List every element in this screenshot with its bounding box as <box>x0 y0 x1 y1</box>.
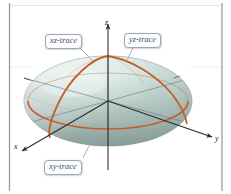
axis-label-x: x <box>14 142 18 151</box>
callout-xz-trace: xz-trace <box>45 34 82 49</box>
axis-label-y: y <box>215 134 219 143</box>
callout-xy-trace: xy-trace <box>44 160 82 175</box>
figure-ellipsoid-traces: xz-trace yz-trace xy-trace z y x <box>0 0 231 194</box>
figure-canvas <box>0 0 231 194</box>
callout-yz-trace: yz-trace <box>124 33 161 48</box>
axis-label-z: z <box>105 18 108 27</box>
